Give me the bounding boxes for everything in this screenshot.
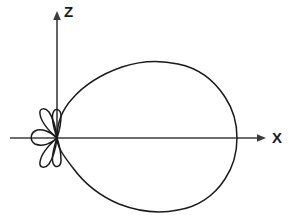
z-axis-label: Z [64, 4, 73, 19]
x-axis-arrowhead [257, 134, 266, 142]
main-lobe-group [57, 62, 237, 212]
back-lobe-4-curve [40, 138, 57, 167]
x-axis-label: X [272, 130, 282, 145]
radiation-pattern-figure: Z X [0, 0, 289, 219]
z-axis-arrowhead [53, 11, 61, 20]
axes-group [10, 11, 266, 142]
polar-pattern-plot [0, 0, 289, 219]
back-lobe-2-curve [40, 109, 57, 138]
main-lobe-curve [57, 62, 237, 212]
